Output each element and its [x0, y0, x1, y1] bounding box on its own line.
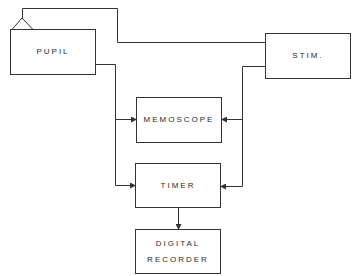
recorder-label-line1: DIGITAL: [135, 237, 221, 250]
timer-label: TIMER: [135, 179, 221, 192]
stim-label: STIM.: [265, 49, 351, 62]
sensor-triangle-icon: [12, 18, 33, 30]
recorder-label-line2: RECORDER: [135, 253, 221, 266]
diagram-lines: [0, 0, 354, 276]
pupil-label: PUPIL: [10, 45, 96, 58]
memoscope-label: MEMOSCOPE: [136, 113, 222, 126]
